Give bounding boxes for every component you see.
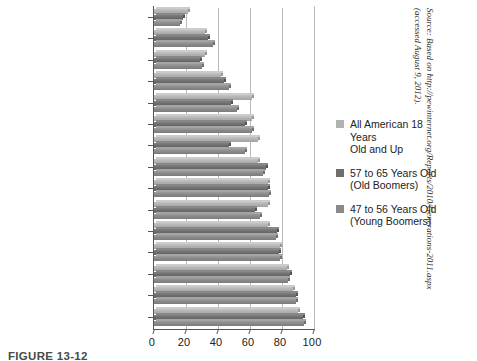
legend-swatch-icon: [336, 169, 344, 177]
bar-top-face: [156, 147, 247, 149]
bar-top-face: [156, 120, 247, 122]
bar-top-face: [156, 242, 282, 244]
bar-top-face: [156, 105, 239, 107]
bar-top-face: [156, 264, 289, 266]
bar-top-face: [156, 62, 204, 64]
bar-3: [154, 214, 260, 219]
bar-body: [154, 85, 229, 90]
bar-body: [154, 171, 263, 176]
chart-category-row: Get financial information: [154, 72, 314, 92]
bar-top-face: [156, 297, 298, 299]
chart-category-row: Download podcasts: [154, 8, 314, 28]
x-tick: [280, 329, 283, 334]
bar-body: [154, 42, 213, 47]
bar-top-face: [156, 248, 281, 250]
bar-top-face: [156, 276, 290, 278]
bar-top-face: [156, 319, 306, 321]
x-tick-label: 100: [297, 336, 327, 348]
bar-top-face: [156, 291, 298, 293]
x-tick-label: 20: [169, 336, 199, 348]
bar-3: [154, 42, 213, 47]
chart-category-row: Use social networks: [154, 136, 314, 156]
bar-3: [154, 299, 296, 304]
chart-category-row: Make purchases: [154, 179, 314, 199]
figure-container: 020406080100 Download podcastsRate produ…: [0, 0, 477, 361]
bar-top-face: [156, 28, 207, 30]
bar-3: [154, 192, 269, 197]
bar-top-face: [156, 71, 223, 73]
bar-top-face: [156, 221, 270, 223]
gridline: [314, 8, 315, 329]
bar-top-face: [156, 157, 260, 159]
bar-top-face: [156, 206, 257, 208]
bar-3: [154, 256, 280, 261]
bar-3: [154, 21, 180, 26]
source-line-1: Source: Based on http://pewinternet.org/…: [425, 8, 435, 289]
bar-top-face: [156, 34, 210, 36]
chart-category-row: Watch videos: [154, 201, 314, 221]
bar-top-face: [156, 212, 262, 214]
x-tick: [248, 329, 251, 334]
bar-top-face: [156, 313, 305, 315]
x-tick: [184, 329, 187, 334]
bar-top-face: [156, 285, 295, 287]
bar-top-face: [156, 184, 270, 186]
bar-top-face: [156, 83, 231, 85]
bar-3: [154, 278, 288, 283]
bar-top-face: [156, 307, 300, 309]
bar-top-face: [156, 114, 254, 116]
bar-top-face: [156, 141, 231, 143]
bar-top-face: [156, 99, 233, 101]
bar-body: [154, 128, 252, 133]
bar-3: [154, 107, 237, 112]
bar-3: [154, 149, 245, 154]
bar-top-face: [156, 56, 202, 58]
bar-body: [154, 107, 237, 112]
bar-3: [154, 321, 304, 326]
x-tick-label: 40: [201, 336, 231, 348]
x-tick-label: 0: [137, 336, 167, 348]
bar-body: [154, 321, 304, 326]
bar-top-face: [156, 227, 279, 229]
chart-category-row: Read blogs: [154, 51, 314, 71]
bar-body: [154, 256, 280, 261]
x-tick-label: 60: [233, 336, 263, 348]
legend-swatch-icon: [336, 120, 344, 128]
bar-top-face: [156, 50, 207, 52]
bar-top-face: [156, 270, 292, 272]
source-line-2: (accessed August 9, 2012).: [412, 8, 424, 348]
bar-body: [154, 214, 260, 219]
bar-body: [154, 278, 288, 283]
bar-top-face: [156, 135, 260, 137]
bar-3: [154, 85, 229, 90]
bar-top-face: [156, 178, 270, 180]
x-tick: [152, 329, 155, 334]
x-tick-label: 80: [265, 336, 295, 348]
bar-body: [154, 149, 245, 154]
bar-3: [154, 171, 263, 176]
x-tick: [312, 329, 315, 334]
figure-caption: FIGURE 13-12: [8, 350, 88, 361]
bar-top-face: [156, 163, 268, 165]
bar-top-face: [156, 19, 182, 21]
chart-category-row: Rate products or services: [154, 29, 314, 49]
bar-top-face: [156, 233, 278, 235]
chart-category-row: Visit government websites: [154, 222, 314, 242]
chart-category-row: Use search engines: [154, 286, 314, 306]
bar-body: [154, 299, 296, 304]
bar-3: [154, 128, 252, 133]
bar-body: [154, 21, 180, 26]
bar-top-face: [156, 169, 265, 171]
x-tick: [216, 329, 219, 334]
x-axis-line: [153, 329, 315, 330]
bar-top-face: [156, 77, 226, 79]
legend-swatch-icon: [336, 205, 344, 213]
bar-body: [154, 192, 269, 197]
bar-body: [154, 64, 202, 69]
bar-top-face: [156, 40, 215, 42]
bar-top-face: [156, 200, 270, 202]
chart-category-row: Bank: [154, 115, 314, 135]
bar-top-face: [156, 190, 271, 192]
bar-top-face: [156, 254, 282, 256]
bar-top-face: [156, 7, 190, 9]
